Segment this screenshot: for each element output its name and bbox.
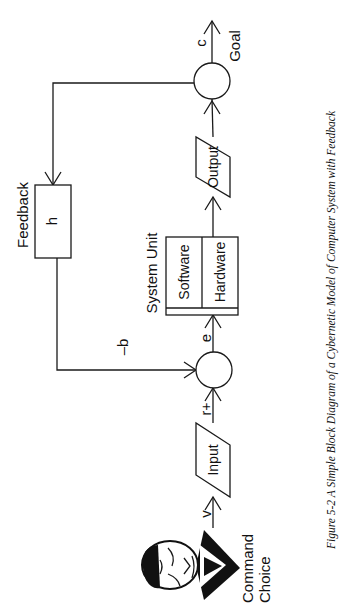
feedback-block: h Feedback: [14, 182, 71, 258]
output-label: Output: [205, 146, 221, 188]
feedback-top-line: [53, 83, 194, 185]
system-unit: Software Hardware System Unit: [143, 232, 238, 315]
command-label: Command: [239, 534, 256, 603]
block-diagram: Input Output Software Hardware System Un…: [0, 0, 344, 609]
summing-junction: [196, 352, 232, 388]
input-label: Input: [205, 444, 221, 475]
hardware-label: Hardware: [212, 241, 228, 302]
signal-c-label: c: [192, 39, 209, 47]
system-unit-title: System Unit: [143, 232, 160, 314]
software-label: Software: [176, 244, 192, 299]
figure-caption: Figure 5-2 A Simple Block Diagram of a C…: [325, 110, 338, 550]
output-to-junction-line: [212, 99, 213, 137]
goal-label: Goal: [226, 30, 243, 62]
feedback-title: Feedback: [14, 182, 31, 248]
signal-r-label: r+: [198, 403, 214, 416]
signal-v-label: v: [197, 510, 214, 518]
signal-e-label: e: [197, 334, 214, 342]
person-face-icon: [142, 530, 240, 600]
choice-label: Choice: [256, 556, 273, 603]
feedback-h-label: h: [43, 217, 60, 225]
output-junction: [194, 63, 230, 99]
signal-b-label: –b: [114, 339, 131, 356]
hair-shape: [143, 545, 160, 588]
